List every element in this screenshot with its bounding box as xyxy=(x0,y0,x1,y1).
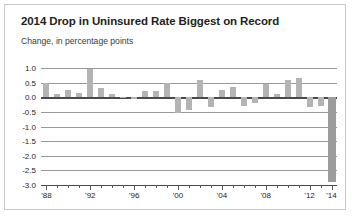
bar xyxy=(65,90,71,97)
x-axis: '88'92'96'00'04'08'12'14 xyxy=(41,185,337,186)
x-axis-tick xyxy=(244,185,245,188)
x-axis-tick xyxy=(288,185,289,188)
bar xyxy=(87,69,93,97)
x-axis-tick xyxy=(310,185,311,190)
x-axis-tick xyxy=(101,185,102,188)
bar xyxy=(175,97,181,113)
y-axis-label: 1.0 xyxy=(25,64,36,73)
x-axis-tick xyxy=(145,185,146,188)
chart-subtitle: Change, in percentage points xyxy=(21,36,133,46)
x-axis-tick xyxy=(57,185,58,188)
x-axis-tick xyxy=(255,185,256,188)
bar xyxy=(263,84,269,97)
bar xyxy=(274,94,280,97)
bar xyxy=(142,91,148,97)
x-axis-tick xyxy=(222,185,223,190)
x-axis-label: '04 xyxy=(217,191,227,200)
x-axis-label: '92 xyxy=(85,191,95,200)
x-axis-tick xyxy=(189,185,190,188)
x-axis-tick xyxy=(266,185,267,190)
bar xyxy=(98,88,104,97)
x-axis-tick xyxy=(79,185,80,188)
x-axis-tick xyxy=(299,185,300,188)
bar xyxy=(109,94,115,97)
y-axis-label: -0.5 xyxy=(22,107,36,116)
x-axis-tick xyxy=(167,185,168,188)
chart-card: 2014 Drop in Uninsured Rate Biggest on R… xyxy=(4,4,346,210)
bar xyxy=(186,97,192,110)
x-axis-tick xyxy=(46,185,47,190)
x-axis-tick xyxy=(123,185,124,188)
y-axis-label: -2.0 xyxy=(22,151,36,160)
bar xyxy=(197,80,203,98)
x-axis-label: '88 xyxy=(41,191,51,200)
y-axis-label: -1.0 xyxy=(22,122,36,131)
bar xyxy=(252,97,258,103)
bar xyxy=(285,80,291,98)
x-axis-tick xyxy=(277,185,278,188)
bar xyxy=(307,97,313,107)
x-axis-label: '96 xyxy=(129,191,139,200)
x-axis-tick xyxy=(134,185,135,190)
bar xyxy=(43,83,49,98)
x-axis-tick xyxy=(332,185,333,190)
x-axis-tick xyxy=(178,185,179,190)
bar xyxy=(164,83,170,98)
x-axis-label: '12 xyxy=(304,191,314,200)
y-axis-label: -2.5 xyxy=(22,166,36,175)
y-axis-label: -3.0 xyxy=(22,181,36,190)
bar xyxy=(230,87,236,97)
bar-highlight xyxy=(328,97,336,182)
x-axis-tick xyxy=(156,185,157,188)
x-axis-label: '00 xyxy=(173,191,183,200)
bar xyxy=(153,91,159,97)
y-axis-label: 0.5 xyxy=(25,78,36,87)
bar xyxy=(296,78,302,97)
x-axis-label: '08 xyxy=(261,191,271,200)
x-axis-tick xyxy=(321,185,322,188)
y-axis-label: 0.0 xyxy=(25,93,36,102)
x-axis-tick xyxy=(233,185,234,188)
chart-title: 2014 Drop in Uninsured Rate Biggest on R… xyxy=(21,15,279,27)
x-axis-tick xyxy=(211,185,212,188)
x-axis-tick xyxy=(200,185,201,188)
bar xyxy=(131,97,137,98)
y-axis-label: -1.5 xyxy=(22,137,36,146)
bar xyxy=(219,90,225,97)
bar xyxy=(241,97,247,106)
x-axis-tick xyxy=(112,185,113,188)
bar xyxy=(120,97,126,98)
bar xyxy=(76,93,82,97)
bar xyxy=(208,97,214,107)
bar xyxy=(318,97,324,106)
bar-series xyxy=(41,68,337,185)
x-axis-tick xyxy=(68,185,69,188)
bar xyxy=(54,94,60,97)
plot-area: 1.00.50.0-0.5-1.0-1.5-2.0-2.5-3.0 xyxy=(41,68,337,185)
x-axis-tick xyxy=(90,185,91,190)
x-axis-label: '14 xyxy=(326,191,336,200)
